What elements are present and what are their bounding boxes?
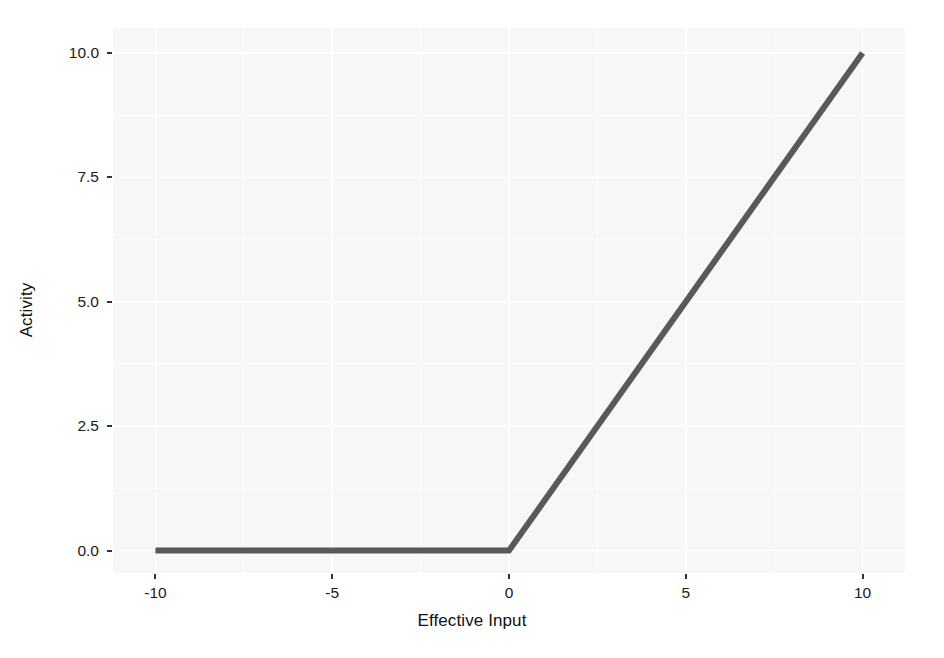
- y-tick-mark: [107, 301, 112, 303]
- x-tick-label: 10: [854, 585, 871, 601]
- x-tick-mark: [508, 574, 510, 579]
- y-axis-title-text: Activity: [17, 283, 37, 338]
- y-tick-mark: [107, 550, 112, 552]
- x-tick-mark: [331, 574, 333, 579]
- x-tick-label: 0: [505, 585, 514, 601]
- y-tick-mark: [107, 52, 112, 54]
- x-tick-mark: [862, 574, 864, 579]
- chart-figure: 10.07.55.02.50.0 -10-50510 Activity Effe…: [0, 0, 944, 658]
- plot-panel: [113, 28, 905, 573]
- x-tick-label: -5: [325, 585, 339, 601]
- y-tick-mark: [107, 425, 112, 427]
- x-tick-mark: [154, 574, 156, 579]
- y-axis-title: Activity: [0, 0, 60, 658]
- y-tick-mark: [107, 176, 112, 178]
- x-tick-mark: [685, 574, 687, 579]
- x-tick-label: -10: [144, 585, 166, 601]
- series-layer: [113, 28, 905, 573]
- relu-line: [155, 53, 862, 551]
- x-axis-title: Effective Input: [0, 611, 944, 631]
- x-tick-label: 5: [681, 585, 690, 601]
